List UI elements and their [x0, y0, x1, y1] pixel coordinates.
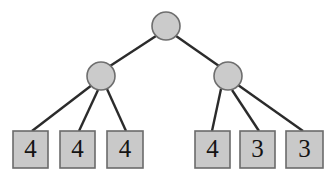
- leaf-label-3: 4: [119, 135, 132, 162]
- circle-node-group: [87, 12, 242, 90]
- edge-group: [32, 36, 303, 131]
- edge-root-to-left-internal: [110, 36, 156, 66]
- edge-root-to-right-internal: [176, 36, 219, 66]
- leaf-node-1: 4: [13, 131, 48, 168]
- leaf-label-1: 4: [24, 135, 37, 162]
- leaf-node-3: 4: [107, 131, 143, 168]
- edge-left-internal-to-leaf-2: [79, 90, 98, 131]
- leaf-label-2: 4: [71, 135, 84, 162]
- leaf-node-6: 3: [286, 131, 323, 168]
- leaf-label-4: 4: [206, 135, 219, 162]
- edge-right-internal-to-leaf-6: [238, 85, 303, 131]
- leaf-node-5: 3: [240, 131, 275, 168]
- leaf-node-4: 4: [195, 131, 230, 168]
- edge-right-internal-to-leaf-4: [212, 89, 221, 131]
- right-internal-node-circle: [214, 62, 242, 90]
- edge-left-internal-to-leaf-3: [107, 89, 126, 131]
- leaf-label-6: 3: [298, 135, 311, 162]
- game-tree-figure: 4 4 4 4 3 3: [0, 0, 334, 177]
- leaf-group: 4 4 4 4 3 3: [13, 131, 323, 168]
- root-node-circle: [152, 12, 180, 40]
- tree-canvas: 4 4 4 4 3 3: [0, 0, 334, 177]
- leaf-label-5: 3: [251, 135, 264, 162]
- left-internal-node-circle: [87, 62, 115, 90]
- leaf-node-2: 4: [60, 131, 95, 168]
